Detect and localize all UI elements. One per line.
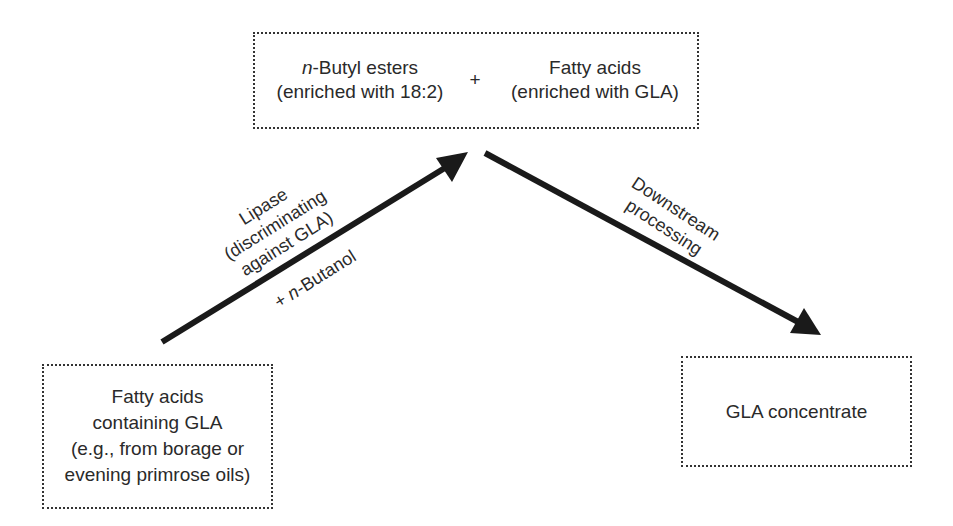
plus-sign: + (465, 68, 485, 92)
butyl-esters-label: n-Butyl esters (enriched with 18:2) (265, 56, 455, 104)
product-box: GLA concentrate (681, 356, 912, 467)
product-label: GLA concentrate (683, 400, 910, 424)
products-box: n-Butyl esters (enriched with 18:2) + Fa… (253, 32, 699, 129)
source-label: Fatty acids containing GLA (e.g., from b… (44, 384, 271, 488)
source-box: Fatty acids containing GLA (e.g., from b… (42, 364, 273, 509)
fatty-acids-gla-label: Fatty acids (enriched with GLA) (500, 56, 690, 104)
